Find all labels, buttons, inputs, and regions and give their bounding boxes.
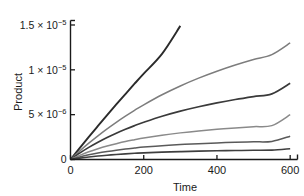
x-tick-group: 0200400600 <box>67 155 299 176</box>
series-line-6 <box>71 149 291 160</box>
x-tick-label-3: 600 <box>281 164 299 176</box>
y-tick-group: 05 × 10−61 × 10−51.5 × 10−5 <box>20 18 75 166</box>
x-tick-label-1: 200 <box>135 164 153 176</box>
plot-area <box>71 26 291 160</box>
x-tick-label-0: 0 <box>67 164 73 176</box>
chart-canvas: 0200400600 05 × 10−61 × 10−51.5 × 10−5 T… <box>0 0 304 196</box>
x-axis-title: Time <box>173 181 197 193</box>
y-tick-label-0: 0 <box>61 153 67 165</box>
series-group <box>71 26 291 160</box>
y-axis-title: Product <box>12 73 24 111</box>
x-tick-label-2: 400 <box>208 164 226 176</box>
series-line-1 <box>71 26 181 160</box>
chart-figure: 0200400600 05 × 10−61 × 10−51.5 × 10−5 T… <box>0 0 304 196</box>
y-tick-label-3: 1.5 × 10−5 <box>20 18 67 31</box>
series-line-3 <box>71 83 291 159</box>
y-tick-label-2: 1 × 10−5 <box>28 63 66 76</box>
y-tick-label-1: 5 × 10−6 <box>28 107 66 120</box>
